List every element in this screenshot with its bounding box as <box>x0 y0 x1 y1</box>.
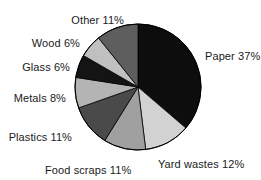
pie-label-wood: Wood 6% <box>32 37 80 49</box>
pie-label-metals: Metals 8% <box>14 92 66 104</box>
pie-label-plastics: Plastics 11% <box>9 131 72 143</box>
pie-label-other: Other 11% <box>71 14 124 26</box>
pie-label-paper: Paper 37% <box>205 50 260 62</box>
pie-chart-svg <box>0 0 261 180</box>
pie-label-yard-wastes: Yard wastes 12% <box>158 158 244 170</box>
pie-label-food-scraps: Food scraps 11% <box>45 164 131 176</box>
pie-label-glass: Glass 6% <box>22 61 70 73</box>
pie-chart-figure: Paper 37%Yard wastes 12%Food scraps 11%P… <box>0 0 261 180</box>
